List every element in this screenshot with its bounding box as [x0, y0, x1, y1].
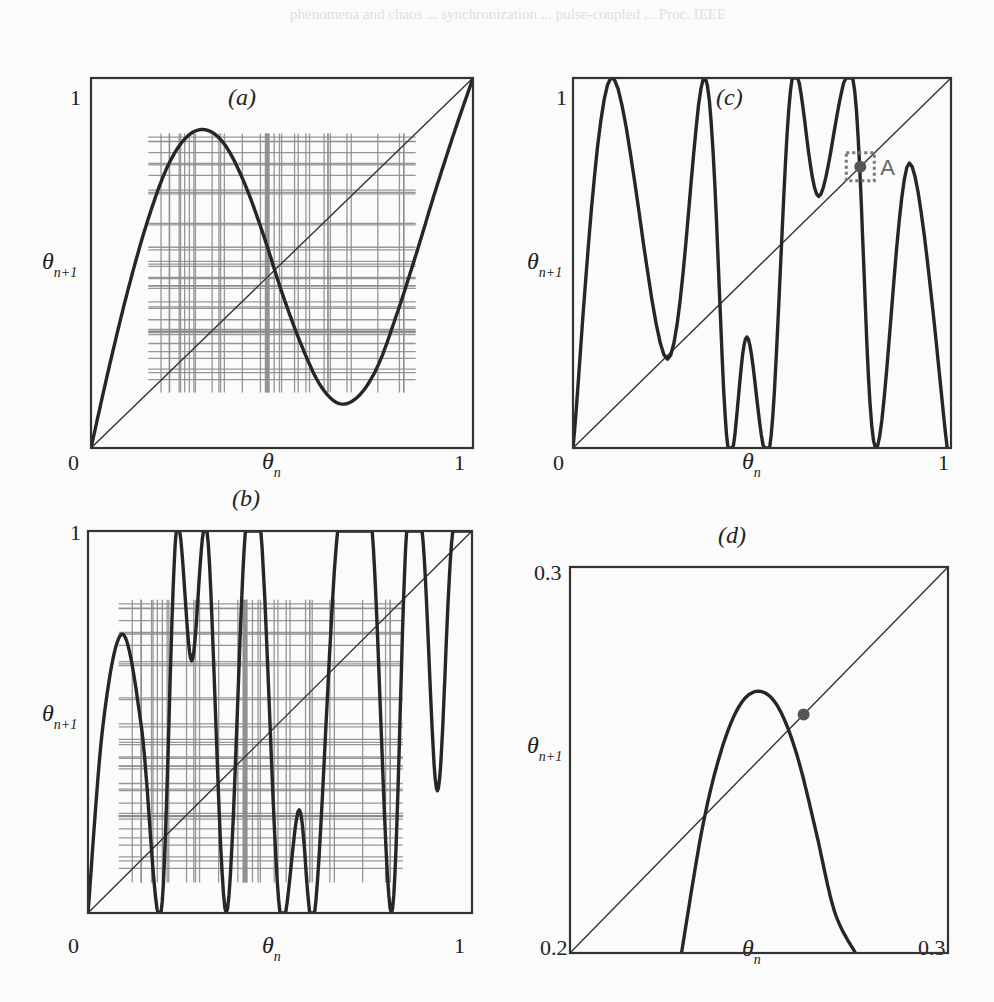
panel-b-xtick-0: 0	[68, 933, 79, 959]
panel-b-ytick: 1	[70, 520, 81, 546]
panel-a-plot	[91, 78, 473, 448]
panel-b-xtick-1: 1	[454, 933, 465, 959]
panel-c-plot: A	[573, 78, 951, 448]
panel-d-xtick-0: 0.2	[540, 935, 568, 961]
panel-a-ylabel: θn+1	[42, 248, 77, 281]
panel-b-title: (b)	[232, 485, 260, 512]
panel-c-xlabel: θn	[742, 448, 761, 481]
panel-a-xlabel: θn	[262, 448, 281, 481]
panel-c-xtick-1: 1	[938, 450, 949, 476]
fixed-point-marker	[854, 161, 866, 173]
panel-d-plot	[570, 567, 948, 953]
panel-d-title: (d)	[718, 522, 746, 549]
panel-d-ylabel: θn+1	[527, 732, 562, 765]
panel-a-ytick: 1	[70, 85, 81, 111]
panel-c-ylabel: θn+1	[527, 248, 562, 281]
panel-a-xtick-0: 0	[68, 450, 79, 476]
map-curve	[682, 691, 856, 953]
panel-b-plot	[88, 531, 472, 913]
panel-d-ytick: 0.3	[534, 560, 562, 586]
panel-b-xlabel: θn	[262, 932, 281, 965]
panel-c-ytick: 1	[556, 85, 567, 111]
panel-a-xtick-1: 1	[454, 450, 465, 476]
fixed-point-label: A	[880, 155, 895, 180]
fixed-point-marker	[798, 708, 810, 720]
diagonal-line	[88, 531, 472, 913]
bleed-through-text: phenomena and chaos ... synchronization …	[290, 4, 990, 25]
panel-b-ylabel: θn+1	[42, 700, 77, 733]
panel-c-xtick-0: 0	[553, 450, 564, 476]
diagonal-line	[570, 567, 948, 953]
